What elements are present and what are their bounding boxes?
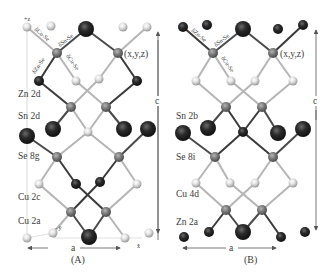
crystal-structure-figure: +z — [0, 0, 332, 280]
se-atom — [210, 152, 220, 162]
coordinate-label: (x,y,z) — [280, 49, 304, 60]
sn-atom — [78, 21, 94, 37]
cu-atom — [119, 23, 128, 32]
panel-a-caption: (A) — [71, 254, 85, 266]
se-atom — [66, 102, 76, 112]
site-label-zn-2d: Zn 2d — [18, 89, 41, 99]
se-atom — [221, 205, 231, 215]
se-atom — [113, 48, 123, 58]
se-atom — [268, 48, 278, 58]
z-axis-label: +z — [24, 16, 30, 22]
coordinate-label: (x,y,z) — [124, 49, 148, 60]
se-atom — [66, 207, 76, 217]
a-lattice-label: a — [229, 243, 234, 253]
se-atom — [257, 205, 267, 215]
cu-atom — [133, 180, 142, 189]
se-atom — [101, 102, 111, 112]
a-lattice-label: a — [71, 243, 76, 253]
site-label-se-8g: Se 8g — [18, 151, 40, 161]
cu-atom — [23, 23, 32, 32]
c-lattice-label: c — [313, 96, 317, 106]
site-label-sn-2d: Sn 2d — [18, 111, 40, 121]
zn-atom — [238, 127, 248, 137]
x-axis-label: x̂ — [137, 243, 140, 249]
cu-atom — [251, 77, 260, 86]
zn-atom — [300, 227, 310, 237]
site-label-cu-2a: Cu 2a — [18, 216, 41, 226]
sn-atom — [295, 121, 311, 137]
zn-atom — [273, 24, 283, 34]
cu-atom — [72, 77, 81, 86]
sn-atom — [140, 121, 156, 137]
cu-atom — [289, 179, 298, 188]
sn-atom — [116, 121, 132, 137]
cu-atom — [143, 23, 152, 32]
zn-atom — [95, 177, 105, 187]
sn-atom — [235, 21, 251, 37]
c-lattice-label: c — [155, 96, 159, 106]
bond-label-cu-se: δCu-Se — [220, 55, 235, 73]
zn-atom — [202, 20, 212, 30]
cu-atom — [84, 128, 93, 137]
zn-atom — [71, 179, 81, 189]
cu-atom — [192, 179, 201, 188]
zn-atom — [276, 232, 286, 242]
sn-atom — [175, 125, 191, 141]
y-axis-label: - ŷ — [55, 225, 62, 231]
site-label-sn-2b: Sn 2b — [176, 111, 198, 121]
se-atom — [257, 102, 267, 112]
zn-atom — [204, 227, 214, 237]
panel-a: +z — [18, 16, 162, 266]
zn-atom — [178, 22, 188, 32]
cu-atom — [35, 180, 44, 189]
site-label-se-8i: Se 8i — [176, 152, 196, 162]
sn-atom — [270, 125, 286, 141]
se-atom — [52, 152, 62, 162]
cu-atom — [121, 234, 130, 243]
cu-atom — [145, 229, 154, 238]
zn-atom — [132, 76, 142, 86]
cu-atom — [95, 75, 104, 84]
zn-atom — [179, 232, 189, 242]
cu-atom — [47, 22, 56, 31]
zn-atom — [298, 20, 308, 30]
panel-b: δZn-Se δSn-Se δCu-Se (x,y,z) Sn 2b Se 8i… — [175, 20, 320, 266]
cu-atom — [23, 234, 32, 243]
sn-atom — [235, 224, 251, 240]
panel-b-caption: (B) — [244, 254, 257, 266]
sn-atom — [19, 128, 35, 144]
se-atom — [101, 207, 111, 217]
cu-atom — [192, 77, 201, 86]
cu-atom — [227, 77, 236, 86]
sn-atom — [200, 120, 216, 136]
cu-atom — [289, 77, 298, 86]
se-atom — [208, 48, 218, 58]
se-atom — [268, 152, 278, 162]
site-label-cu-2c: Cu 2c — [18, 192, 40, 202]
se-atom — [52, 48, 62, 58]
zn-atom — [34, 76, 44, 86]
site-label-zn-2a: Zn 2a — [176, 217, 199, 227]
cu-atom — [226, 179, 235, 188]
sn-atom — [45, 121, 61, 137]
se-atom — [221, 102, 231, 112]
sn-atom — [81, 229, 97, 245]
se-atom — [114, 152, 124, 162]
cu-atom — [251, 179, 260, 188]
site-label-cu-4d: Cu 4d — [176, 189, 199, 199]
